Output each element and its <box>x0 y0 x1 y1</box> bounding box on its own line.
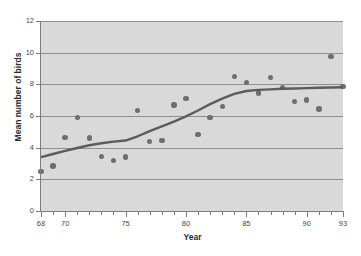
x-axis-tick-minor <box>210 212 211 215</box>
x-axis-tick-minor <box>138 212 139 215</box>
bird-count-scatter-chart: Mean number of birds Year 02468101268707… <box>0 0 361 256</box>
x-axis-tick-minor <box>283 212 284 215</box>
x-axis-tick-minor <box>77 212 78 215</box>
y-axis-tick <box>36 116 41 117</box>
y-axis-tick <box>36 148 41 149</box>
x-axis-tick-major <box>65 212 66 217</box>
x-axis-tick-minor <box>234 212 235 215</box>
x-axis-tick-label: 85 <box>233 219 259 228</box>
x-axis-tick-minor <box>271 212 272 215</box>
x-axis-tick-label: 75 <box>113 219 139 228</box>
x-axis-tick-major <box>246 212 247 217</box>
y-axis-tick-label: 0 <box>4 207 34 215</box>
x-axis-tick-minor <box>174 212 175 215</box>
x-axis-tick-minor <box>150 212 151 215</box>
y-axis-tick <box>36 53 41 54</box>
x-axis-tick-label: 68 <box>28 219 54 228</box>
y-axis-tick <box>36 21 41 22</box>
trend-line-layer <box>41 21 343 211</box>
x-axis-tick-major <box>186 212 187 217</box>
x-axis-tick-minor <box>331 212 332 215</box>
x-axis-tick-minor <box>258 212 259 215</box>
y-axis-tick-label: 12 <box>4 17 34 25</box>
x-axis-title: Year <box>41 232 344 242</box>
y-axis-tick <box>36 179 41 180</box>
x-axis-tick-minor <box>53 212 54 215</box>
y-axis-tick-label: 6 <box>4 112 34 120</box>
x-axis-tick-minor <box>101 212 102 215</box>
y-axis-tick-label: 2 <box>4 175 34 183</box>
trend-line <box>41 87 343 157</box>
y-axis-tick-label: 8 <box>4 80 34 88</box>
x-axis-tick-label: 90 <box>294 219 320 228</box>
x-axis-tick-minor <box>113 212 114 215</box>
y-axis-tick <box>36 84 41 85</box>
x-axis-tick-minor <box>198 212 199 215</box>
x-axis-tick-minor <box>222 212 223 215</box>
x-axis-tick-major <box>307 212 308 217</box>
x-axis-tick-label: 93 <box>330 219 356 228</box>
x-axis-tick-label: 70 <box>52 219 78 228</box>
x-axis-line <box>41 211 344 212</box>
x-axis-tick-major <box>41 212 42 217</box>
x-axis-tick-major <box>126 212 127 217</box>
x-axis-tick-minor <box>89 212 90 215</box>
x-axis-tick-label: 80 <box>173 219 199 228</box>
x-axis-tick-minor <box>162 212 163 215</box>
y-axis-tick-label: 4 <box>4 144 34 152</box>
x-axis-tick-minor <box>295 212 296 215</box>
y-axis-tick-label: 10 <box>4 49 34 57</box>
x-axis-tick-major <box>343 212 344 217</box>
x-axis-tick-minor <box>319 212 320 215</box>
